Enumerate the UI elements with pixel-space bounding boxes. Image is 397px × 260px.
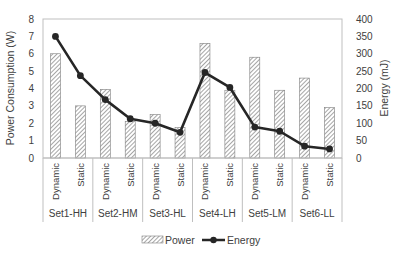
energy-marker [251,124,258,131]
energy-marker [202,69,209,76]
right-tick-label: 0 [356,153,362,164]
group-label: Set5-LM [248,208,286,219]
plot-area [43,19,342,158]
energy-marker [177,129,184,136]
energy-line [52,33,333,152]
left-tick-label: 0 [28,153,34,164]
right-tick-label: 400 [356,14,373,25]
energy-marker [152,120,159,127]
left-tick-label: 3 [28,100,34,111]
subcategory-label: Dynamic [100,163,111,200]
right-tick-label: 150 [356,100,373,111]
power-bar [75,106,85,158]
right-tick-label: 350 [356,31,373,42]
energy-marker [77,72,84,79]
subcategory-label: Static [125,163,136,187]
legend-energy-label: Energy [227,234,261,246]
power-bar [200,43,210,158]
right-tick-label: 100 [356,118,373,129]
left-axis-ticks: 012345678 [28,14,34,164]
subcategory-label: Static [274,163,285,187]
left-tick-label: 1 [28,135,34,146]
legend-power-label: Power [165,234,195,246]
subcategory-label: Static [175,163,186,187]
legend-energy-marker [210,237,216,243]
energy-marker [127,115,134,122]
left-tick-label: 8 [28,14,34,25]
legend: Power Energy [142,234,261,246]
left-tick-label: 4 [28,83,34,94]
energy-marker [102,96,109,103]
left-tick-label: 6 [28,48,34,59]
subcategory-label: Dynamic [299,163,310,200]
energy-marker [52,33,59,40]
group-label: Set1-HH [49,208,87,219]
right-tick-label: 200 [356,83,373,94]
energy-marker [276,128,283,135]
chart: 012345678 050100150200250300350400 Power… [0,0,397,260]
subcategory-label: Dynamic [150,163,161,200]
group-label: Set3-HL [149,208,186,219]
power-bar [275,90,285,158]
left-axis-title: Power Consumption (W) [4,31,16,145]
group-label: Set4-LH [199,208,236,219]
energy-marker [326,146,333,153]
group-label: Set6-LL [300,208,335,219]
subcategory-label: Dynamic [249,163,260,200]
subcategory-label: Static [75,163,86,187]
subcategory-label: Dynamic [50,163,61,200]
energy-polyline [55,36,329,149]
right-tick-label: 50 [356,135,368,146]
right-tick-label: 300 [356,48,373,59]
subcategory-label: Static [224,163,235,187]
right-axis-title: Energy (mJ) [378,59,390,116]
left-tick-label: 2 [28,118,34,129]
group-label: Set2-HM [98,208,137,219]
power-bar [50,54,60,158]
energy-marker [301,143,308,150]
energy-marker [226,84,233,91]
subcategory-label: Static [324,163,335,187]
x-axis: DynamicStaticDynamicStaticDynamicStaticD… [43,158,342,222]
right-axis-ticks: 050100150200250300350400 [356,14,373,164]
left-tick-label: 5 [28,66,34,77]
legend-power-swatch [142,236,163,243]
power-bar [225,90,235,158]
right-tick-label: 250 [356,66,373,77]
power-bar [250,57,260,158]
power-bar [125,122,135,158]
left-tick-label: 7 [28,31,34,42]
subcategory-label: Dynamic [199,163,210,200]
